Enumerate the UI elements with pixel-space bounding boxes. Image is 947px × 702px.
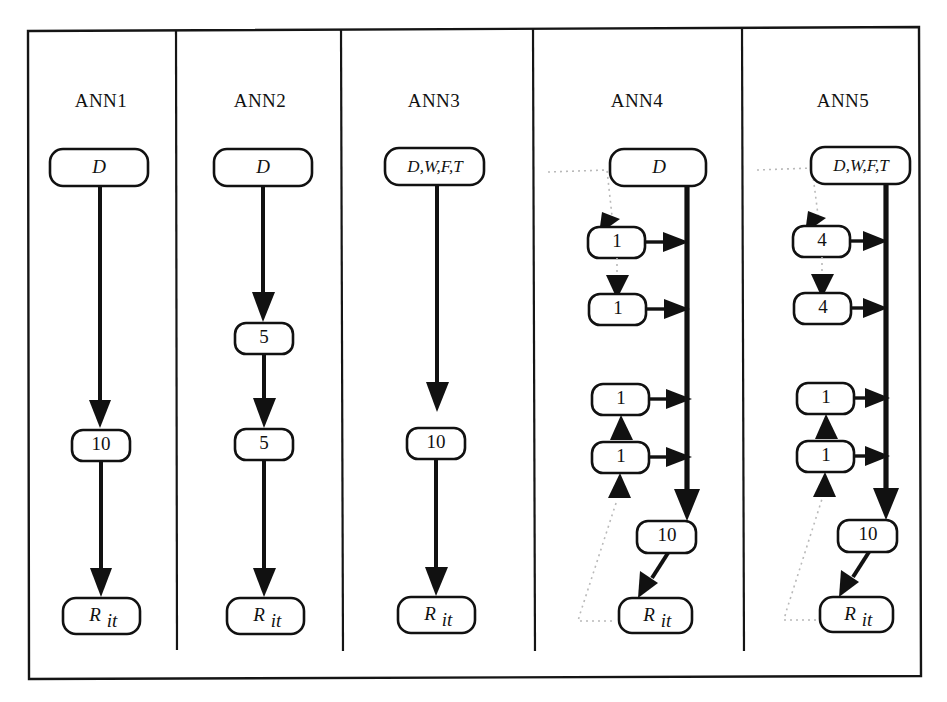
outer-border [28, 27, 921, 679]
edge-ann2-hidden2-output [253, 460, 276, 597]
node-ann4-r3-label: 1 [616, 387, 626, 408]
edge-line [652, 553, 668, 578]
node-ann3-hidden[interactable]: 10 [407, 428, 465, 459]
node-ann3-hidden-label: 10 [427, 431, 446, 452]
feedback-ann4-output-r4 [578, 473, 631, 621]
edge-ann5-hidden-output [839, 552, 869, 597]
node-ann3-output-label: R [423, 603, 436, 624]
edge-ann1-hidden-output [90, 461, 112, 597]
arrowhead-up-icon [608, 473, 631, 498]
edge-ann5-r2-bus [851, 298, 888, 318]
edge-ann4-bus [674, 186, 700, 521]
ann-architectures-figure: ANN1 D 10 R it ANN2 [0, 0, 947, 702]
node-ann5-r4-label: 1 [821, 444, 831, 465]
edge-ann3-input-hidden [426, 185, 449, 412]
node-ann2-output[interactable]: R it [227, 598, 304, 634]
node-shape [619, 598, 692, 633]
node-ann5-input-label: D,W,F,T [832, 156, 890, 175]
node-ann4-input-label: D [651, 156, 666, 177]
node-ann4-hidden[interactable]: 10 [637, 521, 696, 553]
node-ann4-r1-label: 1 [612, 230, 622, 251]
node-ann2-hidden1-label: 5 [259, 326, 269, 347]
panel-divider-2 [341, 29, 343, 651]
edge-ann5-bus [873, 184, 899, 520]
feedback-line [578, 500, 617, 621]
node-ann4-r2[interactable]: 1 [589, 294, 646, 325]
node-ann5-r1-label: 4 [817, 229, 827, 250]
edge-ann3-hidden-output [425, 459, 448, 596]
node-ann4-r4-label: 1 [616, 445, 626, 466]
feedback-ann5-r4-r3 [815, 414, 838, 439]
diagram-canvas: ANN1 D 10 R it ANN2 [0, 0, 947, 702]
node-ann5-output-label: R [843, 603, 856, 624]
node-ann5-r1[interactable]: 4 [793, 226, 850, 257]
node-ann1-output-sub: it [107, 610, 118, 631]
node-ann2-hidden2-label: 5 [259, 432, 269, 453]
node-ann4-r2-label: 1 [613, 297, 623, 318]
node-ann3-input[interactable]: D,W,F,T [385, 148, 484, 185]
node-ann4-input[interactable]: D [610, 149, 706, 186]
edge-ann4-r2-bus [646, 299, 690, 319]
node-ann5-r3-label: 1 [821, 386, 831, 407]
node-ann5-r4[interactable]: 1 [797, 441, 854, 472]
node-ann2-output-label: R [252, 604, 265, 625]
panel-title-ann2: ANN2 [234, 90, 286, 111]
node-ann5-output-sub: it [862, 609, 873, 630]
node-ann2-hidden2[interactable]: 5 [235, 429, 293, 460]
node-ann1-hidden-label: 10 [92, 433, 111, 454]
node-ann4-r3[interactable]: 1 [592, 384, 649, 415]
node-ann1-input[interactable]: D [50, 149, 148, 186]
node-ann5-output[interactable]: R it [820, 597, 893, 632]
node-ann2-input-label: D [255, 156, 270, 177]
arrowhead-down-icon [252, 292, 275, 322]
edge-ann2-input-hidden1 [252, 186, 275, 322]
node-ann1-input-label: D [91, 156, 106, 177]
arrowhead-down-icon [89, 400, 111, 428]
edge-ann4-r1-bus [645, 232, 689, 252]
node-ann3-output[interactable]: R it [398, 597, 475, 633]
edge-ann4-hidden-output [638, 553, 668, 598]
arrowhead-down-icon [426, 382, 449, 412]
panel-ann2: ANN2 D 5 5 R it [214, 90, 312, 634]
node-ann1-hidden[interactable]: 10 [72, 430, 130, 461]
panel-ann5: ANN5 D,W,F,T 4 [757, 90, 910, 632]
node-ann5-r2-label: 4 [818, 296, 828, 317]
arrowhead-down-icon [425, 567, 448, 596]
edge-ann5-r1-bus [850, 231, 888, 251]
node-ann4-hidden-label: 10 [658, 524, 677, 545]
node-ann5-r2[interactable]: 4 [794, 293, 851, 324]
panel-ann4: ANN4 D 1 [548, 90, 706, 633]
node-ann2-output-sub: it [271, 610, 282, 631]
panel-divider-3 [533, 29, 535, 651]
arrowhead-up-icon [813, 472, 836, 497]
node-shape [820, 597, 893, 632]
node-ann4-r1[interactable]: 1 [588, 227, 645, 258]
panel-title-ann4: ANN4 [611, 90, 663, 111]
node-shape [227, 598, 304, 634]
node-ann5-r3[interactable]: 1 [797, 383, 854, 414]
arrowhead-up-icon [610, 415, 633, 440]
feedback-line [757, 168, 818, 215]
feedback-ann4-r4-r3 [610, 415, 633, 440]
edge-ann1-input-hidden [89, 186, 111, 428]
node-ann3-input-label: D,W,F,T [406, 157, 464, 176]
panel-ann3: ANN3 D,W,F,T 10 R it [385, 90, 484, 633]
node-ann2-hidden1[interactable]: 5 [235, 323, 293, 354]
feedback-line [548, 170, 612, 216]
arrowhead-down-icon [253, 568, 276, 597]
node-ann5-hidden-label: 10 [859, 523, 878, 544]
node-ann4-output[interactable]: R it [619, 598, 692, 633]
node-ann2-input[interactable]: D [214, 149, 312, 186]
edge-line [853, 552, 869, 577]
feedback-ann4-input-r1 [548, 170, 620, 234]
node-ann1-output-label: R [88, 604, 101, 625]
panel-title-ann5: ANN5 [817, 90, 869, 111]
node-ann4-r4[interactable]: 1 [592, 442, 649, 473]
arrowhead-up-icon [815, 414, 838, 439]
node-ann4-output-label: R [642, 604, 655, 625]
arrowhead-down-icon [873, 488, 899, 520]
node-ann5-input[interactable]: D,W,F,T [811, 147, 910, 184]
node-ann5-hidden[interactable]: 10 [838, 520, 897, 552]
panel-title-ann3: ANN3 [408, 90, 460, 111]
node-ann1-output[interactable]: R it [63, 598, 140, 634]
